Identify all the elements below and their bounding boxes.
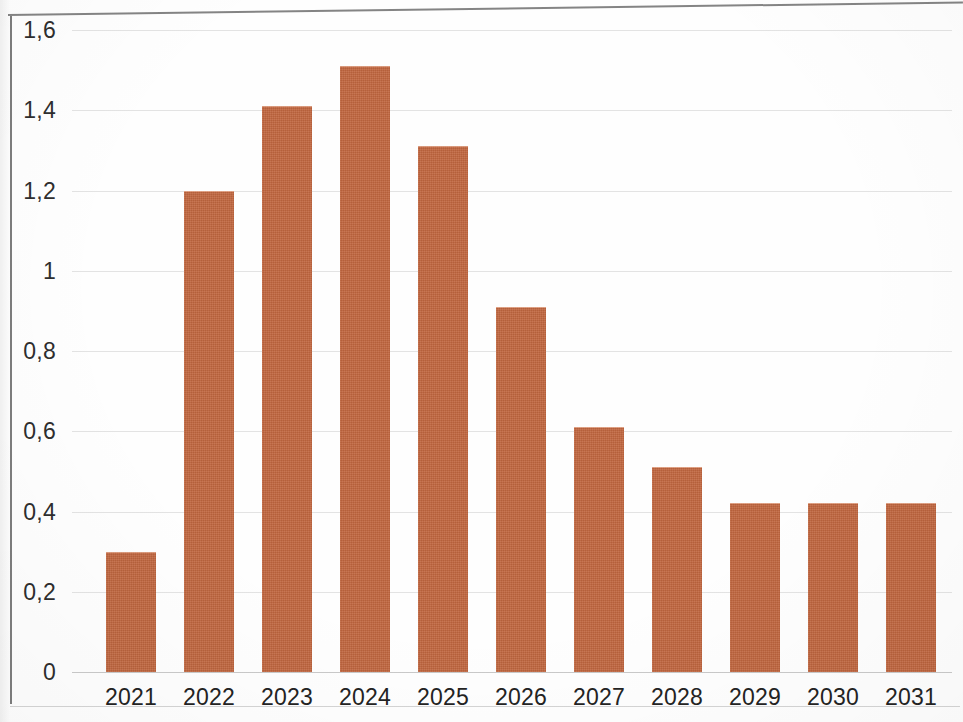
x-tick-label: 2027 <box>560 684 638 711</box>
bar-2030[interactable] <box>808 503 858 672</box>
y-tick-label: 0,6 <box>4 420 56 443</box>
bar-2023[interactable] <box>262 106 312 672</box>
x-tick-label: 2024 <box>326 684 404 711</box>
x-tick-label: 2030 <box>794 684 872 711</box>
x-tick-label: 2031 <box>872 684 950 711</box>
bar-2024[interactable] <box>340 66 390 672</box>
bar-slot <box>248 30 326 672</box>
bar-2029[interactable] <box>730 503 780 672</box>
x-tick-label: 2025 <box>404 684 482 711</box>
x-tick-label: 2028 <box>638 684 716 711</box>
bar-series <box>62 30 952 672</box>
y-tick-label: 0,8 <box>4 340 56 363</box>
bar-2025[interactable] <box>418 146 468 672</box>
bar-2027[interactable] <box>574 427 624 672</box>
bar-slot <box>638 30 716 672</box>
bar-slot <box>404 30 482 672</box>
x-tick-label: 2023 <box>248 684 326 711</box>
y-tick-label: 0,4 <box>4 500 56 523</box>
bar-slot <box>170 30 248 672</box>
gridline-0 <box>72 672 952 673</box>
y-tick-label: 1,4 <box>4 99 56 122</box>
y-tick-label: 0,2 <box>4 580 56 603</box>
x-tick-label: 2026 <box>482 684 560 711</box>
bar-2021[interactable] <box>106 552 156 672</box>
bar-2028[interactable] <box>652 467 702 672</box>
bar-slot <box>482 30 560 672</box>
x-tick-label: 2022 <box>170 684 248 711</box>
bar-slot <box>872 30 950 672</box>
bar-slot <box>794 30 872 672</box>
y-tick-label: 1,2 <box>4 179 56 202</box>
y-tick-label: 1 <box>4 259 56 282</box>
bar-2022[interactable] <box>184 191 234 673</box>
bar-2031[interactable] <box>886 503 936 672</box>
chart-frame-top-border <box>8 1 963 16</box>
bar-2026[interactable] <box>496 307 546 672</box>
bar-slot <box>326 30 404 672</box>
x-tick-label: 2029 <box>716 684 794 711</box>
y-tick-label: 0 <box>4 661 56 684</box>
bar-slot <box>716 30 794 672</box>
plot-area: 00,20,40,60,811,21,41,6 2021202220232024… <box>62 30 952 672</box>
x-tick-label: 2021 <box>92 684 170 711</box>
bar-slot <box>92 30 170 672</box>
chart-screenshot: 00,20,40,60,811,21,41,6 2021202220232024… <box>0 0 963 722</box>
y-tick-label: 1,6 <box>4 19 56 42</box>
bar-slot <box>560 30 638 672</box>
